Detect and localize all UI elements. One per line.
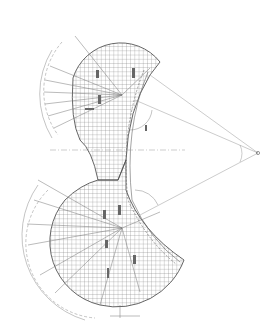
plan-drawing xyxy=(0,0,267,336)
lower-lobe xyxy=(50,160,184,307)
upper-lobe xyxy=(72,43,160,180)
drawing-canvas xyxy=(0,0,267,336)
angle-arcs xyxy=(130,110,158,205)
